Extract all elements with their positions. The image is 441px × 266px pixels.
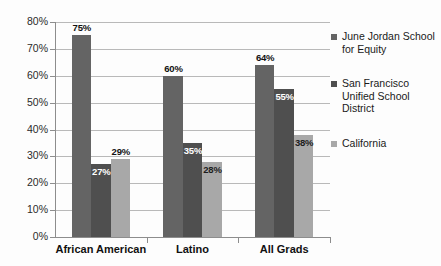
y-tick-label: 50% — [2, 96, 48, 108]
x-axis-end-tick — [330, 237, 331, 243]
bar-value-label: 29% — [112, 146, 130, 157]
bar-value-label: 38% — [295, 137, 313, 148]
y-tick-mark — [50, 22, 55, 23]
legend-swatch-icon — [331, 141, 337, 147]
legend-item[interactable]: San Francisco Unified School District — [331, 77, 439, 115]
y-tick-mark — [50, 49, 55, 50]
x-axis-line — [55, 237, 331, 238]
bar-value-label: 27% — [92, 166, 110, 177]
bar-value-label: 64% — [256, 52, 274, 63]
bar — [294, 135, 314, 237]
bar-value-label: 55% — [275, 91, 293, 102]
y-tick-mark — [50, 183, 55, 184]
y-tick-mark — [50, 76, 55, 77]
y-tick-mark — [50, 156, 55, 157]
y-tick-label: 60% — [2, 69, 48, 81]
y-tick-label: 30% — [2, 149, 48, 161]
legend-swatch-icon — [331, 81, 337, 87]
y-tick-label: 10% — [2, 203, 48, 215]
bar-value-label: 60% — [164, 63, 182, 74]
x-category-label: All Grads — [238, 243, 330, 255]
bar — [183, 143, 203, 237]
y-tick-mark — [50, 237, 55, 238]
gridline — [55, 49, 330, 50]
x-group-separator — [147, 237, 148, 243]
legend-item[interactable]: June Jordan School for Equity — [331, 30, 439, 55]
bar-value-label: 75% — [73, 22, 91, 33]
y-tick-label: 20% — [2, 176, 48, 188]
bar — [72, 35, 92, 237]
legend-swatch-icon — [331, 34, 337, 40]
y-axis-line — [55, 22, 56, 238]
y-tick-mark — [50, 210, 55, 211]
bar — [255, 65, 275, 237]
bar — [163, 76, 183, 237]
chart-legend: June Jordan School for EquitySan Francis… — [331, 30, 439, 171]
bar-value-label: 28% — [203, 164, 221, 175]
y-tick-label: 80% — [2, 15, 48, 27]
gridline — [55, 76, 330, 77]
bar-chart: 0%10%20%30%40%50%60%70%80% 75%27%29%60%3… — [0, 0, 441, 266]
bar — [111, 159, 131, 237]
x-category-label: Latino — [147, 243, 239, 255]
y-tick-label: 0% — [2, 230, 48, 242]
y-tick-mark — [50, 130, 55, 131]
legend-label: California — [342, 137, 386, 150]
legend-item[interactable]: California — [331, 137, 439, 150]
bar-value-label: 35% — [184, 145, 202, 156]
legend-label: June Jordan School for Equity — [342, 30, 439, 55]
y-tick-label: 40% — [2, 123, 48, 135]
plot-area: 75%27%29%60%35%28%64%55%38% — [55, 22, 330, 237]
bar — [274, 89, 294, 237]
y-axis-labels: 0%10%20%30%40%50%60%70%80% — [0, 22, 48, 237]
x-group-separator — [238, 237, 239, 243]
y-tick-label: 70% — [2, 42, 48, 54]
x-category-label: African American — [55, 243, 147, 255]
gridline — [55, 22, 330, 23]
legend-label: San Francisco Unified School District — [342, 77, 439, 115]
y-tick-mark — [50, 103, 55, 104]
